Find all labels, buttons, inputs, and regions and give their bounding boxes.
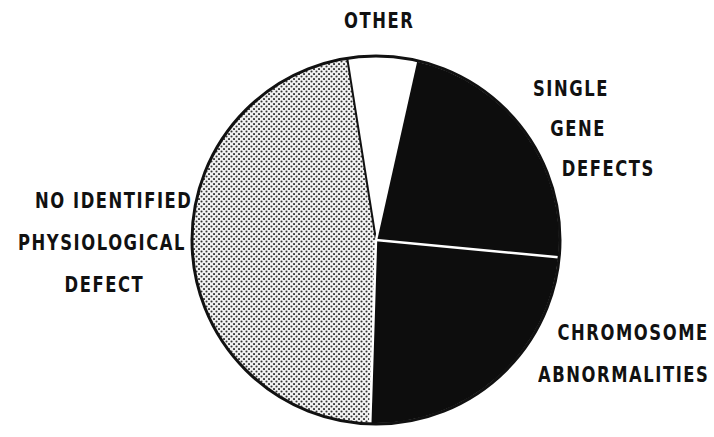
label-no-identified-physiological-defect: NO IDENTIFIED PHYSIOLOGICAL DEFECT — [10, 186, 194, 301]
label-other: OTHER — [344, 6, 414, 37]
label-chromosome-abnormalities: CHROMOSOME ABNORMALITIES — [538, 318, 709, 391]
pie-slice-no-identified-physiological-defect — [193, 59, 376, 423]
label-other-line: OTHER — [344, 6, 414, 37]
label-single-gene-defects: SINGLE GENE DEFECTS — [533, 74, 655, 185]
pie-slice-chromosome-abnormalities — [370, 240, 558, 423]
label-line: GENE — [533, 114, 655, 145]
label-line: ABNORMALITIES — [538, 360, 709, 391]
label-line: CHROMOSOME — [538, 318, 709, 349]
label-line: SINGLE — [533, 74, 655, 105]
label-line: PHYSIOLOGICAL — [10, 228, 194, 259]
label-line: DEFECTS — [533, 154, 655, 185]
label-line: NO IDENTIFIED — [10, 186, 194, 217]
label-line: DEFECT — [10, 270, 194, 301]
